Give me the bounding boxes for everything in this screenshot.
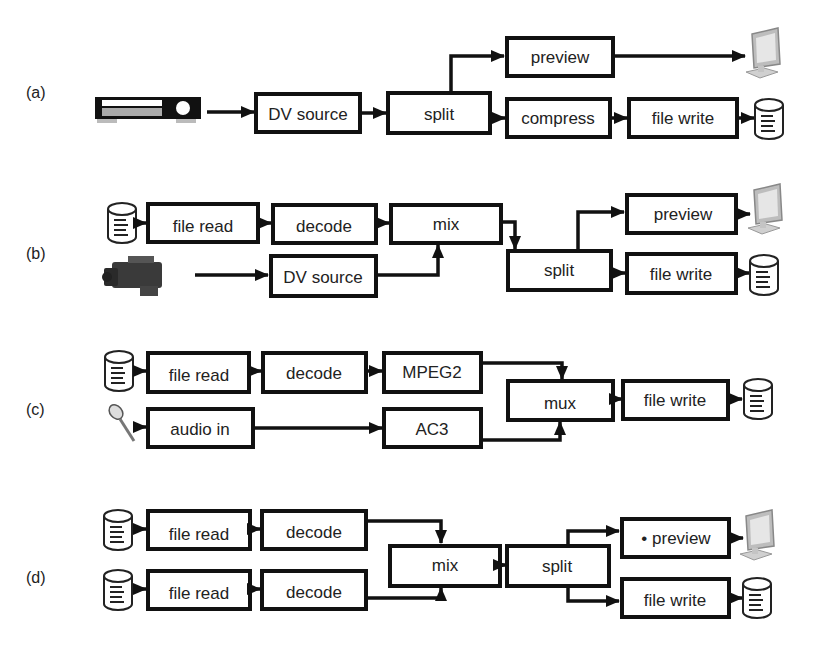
monitor-icon <box>748 184 782 234</box>
svg-text:preview: preview <box>531 48 590 67</box>
svg-text:decode: decode <box>296 217 352 236</box>
svg-text:file write: file write <box>650 265 712 284</box>
svg-text:split: split <box>542 557 573 576</box>
vcr-icon <box>95 97 201 123</box>
svg-text:decode: decode <box>286 364 342 383</box>
svg-text:file write: file write <box>652 109 714 128</box>
svg-text:preview: preview <box>654 205 713 224</box>
disk-icon <box>108 203 136 243</box>
svg-text:MPEG2: MPEG2 <box>402 363 462 382</box>
microphone-icon <box>106 402 134 441</box>
svg-text:audio in: audio in <box>170 420 230 439</box>
svg-text:• preview: • preview <box>641 529 711 548</box>
disk-icon <box>104 570 132 610</box>
node-decode-1[interactable]: decode <box>262 511 366 549</box>
panel-a: DV source split preview compress file wr… <box>95 28 783 139</box>
node-decode[interactable]: decode <box>263 353 366 392</box>
svg-text:file write: file write <box>644 591 706 610</box>
node-file-write[interactable]: file write <box>622 579 729 617</box>
svg-text:file read: file read <box>169 366 229 385</box>
disk-icon <box>105 351 133 391</box>
node-audio-in[interactable]: audio in <box>148 409 253 447</box>
panel-label-c: (c) <box>26 401 45 418</box>
panel-label-a: (a) <box>26 84 46 101</box>
node-dv-source[interactable]: DV source <box>271 256 376 296</box>
svg-text:decode: decode <box>286 523 342 542</box>
node-file-read-1[interactable]: file read <box>148 511 250 549</box>
monitor-icon <box>746 28 780 78</box>
node-preview[interactable]: preview <box>627 195 736 233</box>
node-split[interactable]: split <box>388 93 490 133</box>
node-decode-2[interactable]: decode <box>262 571 366 609</box>
disk-icon <box>750 255 778 295</box>
svg-text:compress: compress <box>521 109 595 128</box>
node-mix[interactable]: mix <box>391 205 501 243</box>
node-dv-source[interactable]: DV source <box>256 94 360 132</box>
node-file-write[interactable]: file write <box>629 99 737 137</box>
svg-text:file read: file read <box>169 584 229 603</box>
monitor-icon <box>740 510 774 560</box>
svg-text:mix: mix <box>432 556 459 575</box>
panel-b: file read decode mix DV source <box>102 184 782 296</box>
svg-text:mux: mux <box>544 394 577 413</box>
svg-text:split: split <box>544 261 575 280</box>
panel-label-d: (d) <box>26 569 46 586</box>
node-file-write[interactable]: file write <box>627 254 736 293</box>
camcorder-icon <box>102 256 162 296</box>
node-preview[interactable]: preview <box>507 38 613 76</box>
disk-icon <box>743 578 771 618</box>
node-decode[interactable]: decode <box>273 205 376 243</box>
node-file-read-2[interactable]: file read <box>148 571 250 609</box>
node-split[interactable]: split <box>508 251 611 290</box>
disk-icon <box>755 99 783 139</box>
node-compress[interactable]: compress <box>507 99 610 137</box>
node-file-write[interactable]: file write <box>623 381 728 419</box>
node-mux[interactable]: mux <box>508 381 613 420</box>
disk-icon <box>744 379 772 419</box>
panel-label-b: (b) <box>26 245 46 262</box>
svg-text:mix: mix <box>433 215 460 234</box>
node-file-read[interactable]: file read <box>148 204 258 242</box>
panel-c: file read decode MPEG2 audio in AC3 <box>105 351 772 447</box>
svg-text:file write: file write <box>644 391 706 410</box>
panel-d: file read decode file read decode mix sp… <box>104 510 774 618</box>
svg-text:DV source: DV source <box>283 268 362 287</box>
pipeline-diagram: (a) (b) (c) (d) DV source split preview <box>0 0 817 649</box>
node-preview[interactable]: • preview <box>622 519 729 557</box>
svg-text:split: split <box>424 105 455 124</box>
svg-text:file read: file read <box>173 217 233 236</box>
svg-text:AC3: AC3 <box>415 420 448 439</box>
svg-text:file read: file read <box>169 525 229 544</box>
svg-text:DV source: DV source <box>268 105 347 124</box>
node-ac3[interactable]: AC3 <box>384 409 481 447</box>
node-split[interactable]: split <box>507 546 609 586</box>
node-mix[interactable]: mix <box>390 546 500 586</box>
disk-icon <box>104 510 132 550</box>
svg-text:decode: decode <box>286 583 342 602</box>
node-mpeg2[interactable]: MPEG2 <box>384 353 481 392</box>
node-file-read[interactable]: file read <box>148 353 249 392</box>
